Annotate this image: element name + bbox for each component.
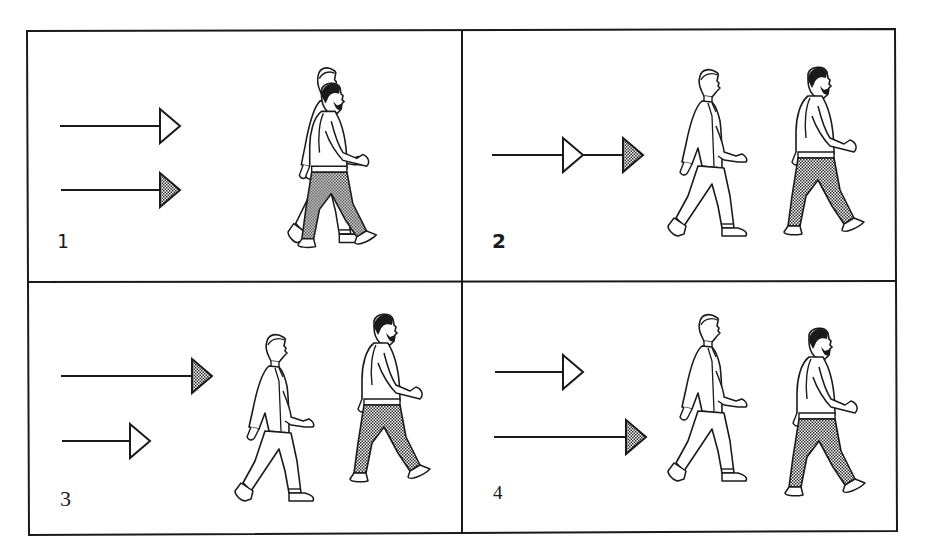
suit-man-figure <box>235 335 314 501</box>
hollow-arrow <box>495 355 583 389</box>
panel-label-3: 3 <box>60 488 71 510</box>
panel-label-2: 2 <box>492 231 506 251</box>
suit-man-figure <box>668 70 747 236</box>
bearded-man-figure <box>784 67 864 235</box>
hollow-arrow <box>60 109 180 143</box>
filled-arrow <box>61 173 180 207</box>
filled-arrow <box>494 420 646 454</box>
panel-2 <box>492 67 864 236</box>
panel-4 <box>494 315 865 496</box>
panel-grid <box>27 29 897 535</box>
diagram-canvas <box>0 0 927 556</box>
filled-arrow <box>61 359 212 393</box>
chained-arrow <box>492 138 643 172</box>
panel-label-1: 1 <box>57 232 68 251</box>
suit-man-figure <box>668 315 747 481</box>
bearded-man-figure <box>350 314 430 482</box>
bearded-man-figure <box>785 328 865 496</box>
hollow-arrow <box>62 424 150 458</box>
panel-1 <box>60 68 376 248</box>
panel-3 <box>61 314 430 501</box>
panel-label-4: 4 <box>493 483 503 502</box>
